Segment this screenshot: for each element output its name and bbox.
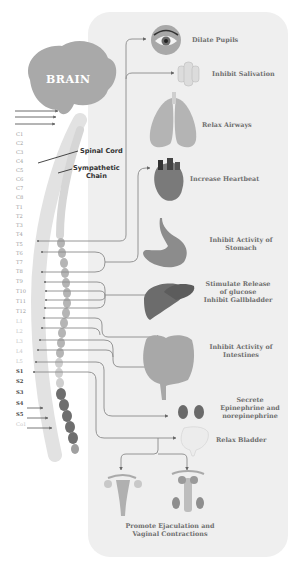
vertebra-T10: T10 <box>16 288 26 294</box>
vertebra-T12: T12 <box>16 308 26 314</box>
vertebra-S5: S5 <box>16 411 23 417</box>
vertebra-T11: T11 <box>16 298 26 304</box>
vertebra-S3: S3 <box>16 389 23 395</box>
kidneys-icon <box>178 405 204 419</box>
eye-icon <box>151 25 181 55</box>
intestines-icon <box>143 335 194 400</box>
liver-icon <box>144 284 194 320</box>
vertebra-L1: L1 <box>16 318 23 324</box>
vertebra-L2: L2 <box>16 328 23 334</box>
sympathetic-chain-label: Sympathetic Chain <box>73 164 120 180</box>
vertebra-C8: C8 <box>16 194 23 200</box>
vertebra-S2: S2 <box>16 378 23 384</box>
lungs-icon <box>150 92 196 147</box>
vertebra-T1: T1 <box>16 204 23 210</box>
spinal-cord-label: Spinal Cord <box>80 147 123 155</box>
vertebra-C1: C1 <box>16 131 23 137</box>
vertebra-Co1: Co1 <box>16 421 26 427</box>
effect-label-secrete-epinephrine: Secrete Epinephrine and norepinephrine <box>214 396 286 420</box>
vertebra-C7: C7 <box>16 185 23 191</box>
brain-label: BRAIN <box>46 73 91 86</box>
vertebra-T6: T6 <box>16 250 23 256</box>
vertebra-L4: L4 <box>16 348 23 354</box>
vertebra-T7: T7 <box>16 259 23 265</box>
reproductive-organs-icon <box>104 471 204 516</box>
vertebra-C4: C4 <box>16 158 23 164</box>
heart-icon <box>154 158 183 201</box>
stomach-icon <box>143 218 187 267</box>
effect-label-increase-heartbeat: Increase Heartbeat <box>190 175 259 183</box>
vertebra-T9: T9 <box>16 278 23 284</box>
brain-input-arrows <box>15 111 58 124</box>
vertebra-S4: S4 <box>16 400 23 406</box>
vertebra-L3: L3 <box>16 338 23 344</box>
effect-label-relax-bladder: Relax Bladder <box>216 436 266 444</box>
vertebra-C6: C6 <box>16 176 23 182</box>
vertebra-L5: L5 <box>16 358 23 364</box>
bladder-icon <box>181 427 208 456</box>
salivary-gland-icon <box>178 62 199 86</box>
effect-label-relax-airways: Relax Airways <box>202 121 252 129</box>
effect-label-dilate-pupils: Dilate Pupils <box>192 36 238 44</box>
effect-label-inhibit-intestines: Inhibit Activity of Intestines <box>196 343 286 359</box>
effect-label-inhibit-salivation: Inhibit Salivation <box>212 70 275 78</box>
effect-label-reproductive: Promote Ejaculation and Vaginal Contract… <box>110 522 230 538</box>
vertebra-T8: T8 <box>16 268 23 274</box>
vertebra-C3: C3 <box>16 149 23 155</box>
effect-label-liver: Stimulate Release of glucose Inhibit Gal… <box>194 280 282 304</box>
vertebra-T3: T3 <box>16 222 23 228</box>
vertebra-T2: T2 <box>16 213 23 219</box>
vertebra-C2: C2 <box>16 140 23 146</box>
vertebra-T5: T5 <box>16 241 23 247</box>
effect-label-inhibit-stomach: Inhibit Activity of Stomach <box>196 236 286 252</box>
vertebra-S1: S1 <box>16 368 23 374</box>
vertebra-T4: T4 <box>16 231 23 237</box>
vertebra-C5: C5 <box>16 167 23 173</box>
